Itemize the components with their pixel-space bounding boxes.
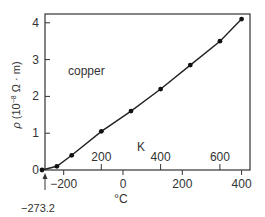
plot-frame xyxy=(45,14,250,170)
x2-axis-label: K xyxy=(137,140,145,154)
x-tick-label: 400 xyxy=(232,177,252,191)
y-tick-label: 3 xyxy=(32,53,39,67)
y-tick-label: 2 xyxy=(32,89,39,103)
svg-text:−273.2: −273.2 xyxy=(21,202,55,214)
x-tick-label: −200 xyxy=(50,177,77,191)
data-point xyxy=(40,168,45,173)
x-axis-ticks-celsius: −2000200400 xyxy=(50,170,252,191)
data-point xyxy=(188,63,193,68)
kelvin-tick-label: 200 xyxy=(91,150,111,164)
data-point xyxy=(99,129,104,134)
series-annotation: copper xyxy=(68,64,105,78)
resistivity-chart: 01234 −2000200400 200400600 copper K °C … xyxy=(0,0,265,217)
x-tick-label: 200 xyxy=(172,177,192,191)
data-point xyxy=(129,109,134,114)
data-point xyxy=(239,17,244,22)
y-tick-label: 4 xyxy=(32,16,39,30)
svg-text:ρ (10−8 Ω · m): ρ (10−8 Ω · m) xyxy=(10,61,22,129)
kelvin-tick-label: 400 xyxy=(151,150,171,164)
y-axis-ticks: 01234 xyxy=(32,16,50,177)
x-axis-ticks-kelvin: 200400600 xyxy=(91,150,230,170)
y-axis-label: ρ (10−8 Ω · m) xyxy=(10,61,22,129)
data-point xyxy=(54,164,59,169)
x-tick-label: 0 xyxy=(120,177,127,191)
kelvin-tick-label: 600 xyxy=(210,150,230,164)
data-point xyxy=(218,39,223,44)
y-tick-label: 0 xyxy=(32,163,39,177)
y-tick-label: 1 xyxy=(32,126,39,140)
x-axis-label: °C xyxy=(114,192,128,206)
data-point xyxy=(69,153,74,158)
data-point xyxy=(158,87,163,92)
